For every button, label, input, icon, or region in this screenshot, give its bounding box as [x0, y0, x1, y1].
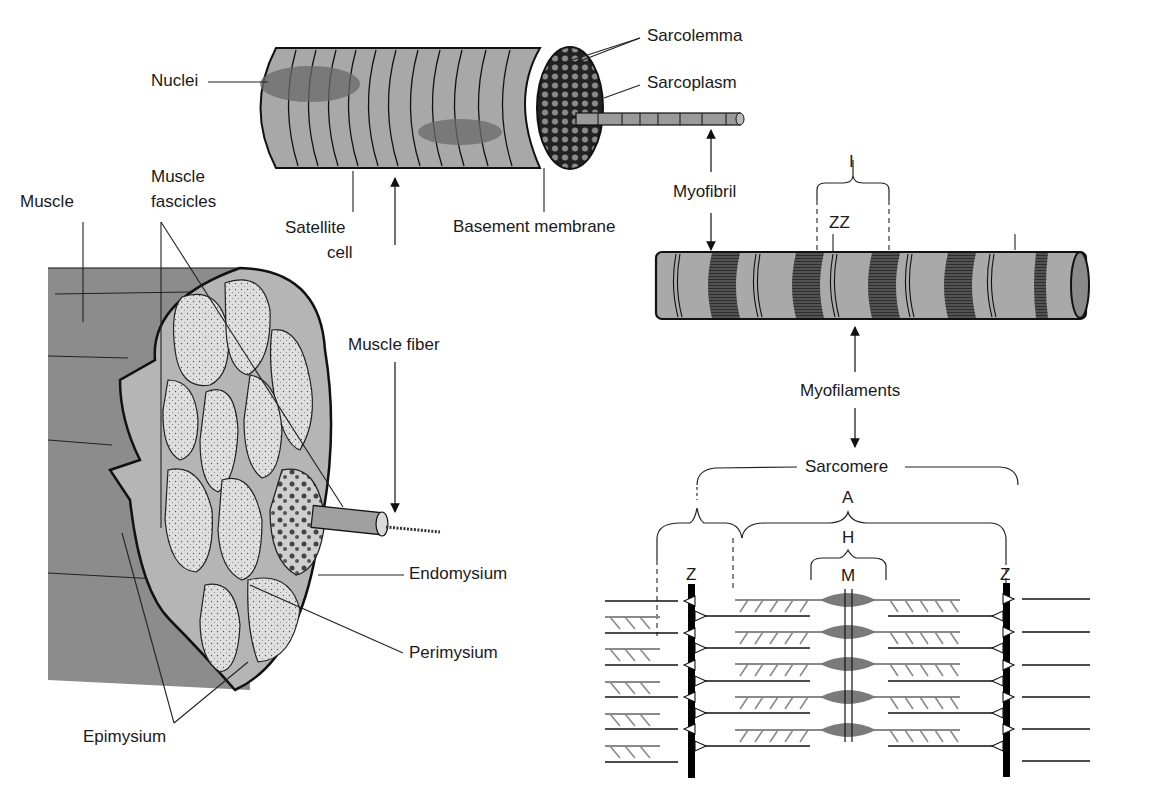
label-nuclei: Nuclei [151, 71, 198, 91]
label-endomysium: Endomysium [409, 564, 507, 584]
label-muscle-fiber: Muscle fiber [348, 335, 440, 355]
label-muscle-fascicles-1: Muscle [151, 167, 205, 187]
label-i-band: I [849, 152, 854, 172]
thick-filaments [605, 600, 960, 746]
label-myofilaments: Myofilaments [800, 381, 900, 401]
m-line-bulges [820, 593, 876, 737]
nucleus-2 [418, 119, 502, 145]
z-disc-right [1003, 583, 1010, 777]
label-z-left: Z [686, 565, 696, 585]
muscle-illustration [48, 222, 440, 723]
fiber-cross-section [537, 47, 603, 169]
muscle-fiber-illustration [208, 38, 744, 212]
label-muscle-fascicles-2: fascicles [151, 192, 216, 212]
label-zz: ZZ [829, 213, 850, 233]
sarcomere-illustration [605, 467, 1090, 778]
label-sarcomere: Sarcomere [805, 457, 888, 477]
label-myofibril: Myofibril [673, 182, 736, 202]
label-satellite-cell-1: Satellite [285, 218, 345, 238]
label-perimysium: Perimysium [409, 643, 498, 663]
z-disc-left [688, 584, 695, 778]
label-m-line: M [841, 566, 855, 586]
protruding-fiber [311, 506, 440, 536]
label-z-right: Z [1000, 565, 1010, 585]
label-a-band: A [842, 488, 853, 508]
skeletal-muscle-diagram [0, 0, 1169, 798]
label-h-zone: H [842, 528, 854, 548]
label-sarcolemma: Sarcolemma [647, 26, 742, 46]
label-basement-membrane: Basement membrane [453, 217, 616, 237]
myofibril-rod [576, 113, 744, 125]
nucleus-1 [260, 66, 360, 102]
label-sarcoplasm: Sarcoplasm [647, 73, 737, 93]
label-muscle: Muscle [20, 192, 74, 212]
label-satellite-cell-2: cell [327, 243, 353, 263]
label-epimysium: Epimysium [83, 727, 166, 747]
